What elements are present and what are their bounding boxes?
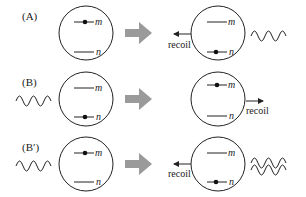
recoil-label: recoil [168, 39, 191, 50]
electron-dot [214, 180, 219, 185]
level-m-label: m [228, 147, 235, 158]
level-n-label: n [96, 46, 101, 57]
level-m-label: m [95, 16, 102, 27]
level-n-label: n [96, 111, 101, 122]
atom-before-b-prime: m n [59, 137, 113, 191]
electron-dot [83, 115, 88, 120]
electron-dot [215, 83, 220, 88]
panel-label-b-prime: (B′) [22, 141, 39, 154]
panel-b: (B) m n m n recoil [16, 72, 269, 126]
electron-dot [83, 151, 88, 156]
electron-dot [214, 50, 219, 55]
level-m-label: m [95, 82, 102, 93]
incoming-photon-wave [16, 161, 51, 171]
process-arrow-a [125, 22, 152, 44]
incoming-photon-wave [16, 96, 51, 106]
atom-before-a: m n [59, 6, 113, 60]
recoil-label: recoil [246, 105, 269, 116]
level-m-label: m [228, 79, 235, 90]
electron-dot [83, 20, 88, 25]
level-n-label: n [96, 176, 101, 187]
atom-transition-diagram: (A) m n m n recoil (B) m [0, 0, 306, 197]
level-n-label: n [229, 176, 234, 187]
panel-label-b: (B) [22, 76, 37, 89]
emitted-photon-wave [251, 31, 286, 41]
recoil-label: recoil [168, 168, 191, 179]
atom-after-b: m n [191, 72, 245, 126]
panel-b-prime: (B′) m n m n recoil [16, 137, 286, 191]
level-m-label: m [95, 147, 102, 158]
level-m-label: m [228, 16, 235, 27]
atom-before-b: m n [59, 72, 113, 126]
level-n-label: n [229, 46, 234, 57]
panel-label-a: (A) [22, 10, 38, 23]
level-n-label: n [229, 110, 234, 121]
stimulated-emission-double-wave [251, 158, 286, 175]
atom-after-b-prime: m n [191, 137, 245, 191]
panel-a: (A) m n m n recoil [22, 6, 286, 60]
process-arrow-b [125, 88, 152, 110]
atom-after-a: m n [191, 6, 245, 60]
process-arrow-b-prime [125, 153, 152, 175]
